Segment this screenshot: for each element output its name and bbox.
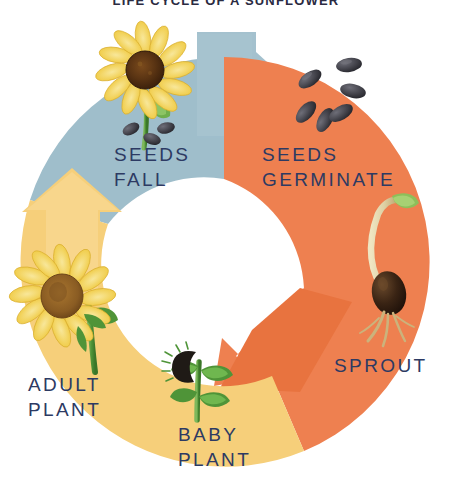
stage-label-line: BABY xyxy=(178,423,251,448)
stage-label-seeds-germinate: SEEDS GERMINATE xyxy=(262,143,395,192)
stage-label-line: PLANT xyxy=(28,398,101,423)
stage-label-line: ADULT xyxy=(28,373,101,398)
stage-label-seeds-fall: SEEDS FALL xyxy=(114,143,190,192)
stage-label-sprout: SPROUT xyxy=(334,354,428,379)
life-cycle-poster: LIFE CYCLE OF A SUNFLOWER xyxy=(0,0,452,486)
stage-label-line: SEEDS xyxy=(114,143,190,168)
stage-label-line: GERMINATE xyxy=(262,168,395,193)
stage-label-adult-plant: ADULT PLANT xyxy=(28,373,101,422)
stage-label-line: SEEDS xyxy=(262,143,395,168)
stage-label-baby-plant: BABY PLANT xyxy=(178,423,251,472)
stage-label-line: FALL xyxy=(114,168,190,193)
stage-label-line: PLANT xyxy=(178,448,251,473)
stage-label-line: SPROUT xyxy=(334,354,428,379)
